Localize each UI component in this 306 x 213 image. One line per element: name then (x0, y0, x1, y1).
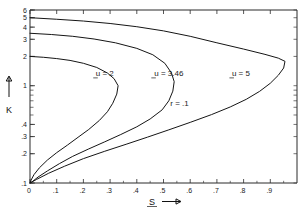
x-tick-label: .4 (133, 187, 139, 194)
y-tick-label: 5 (23, 14, 27, 21)
x-tick-label: .6 (186, 187, 192, 194)
y-tick-label: .3 (21, 133, 27, 140)
y-axis-label: K (6, 105, 12, 115)
x-tick-label: .8 (240, 187, 246, 194)
y-tick-label: 4 (23, 24, 27, 31)
x-axis-label: S (149, 197, 155, 207)
chart-canvas: 0.1.2.3.4.5.6.7.8.9.1.2.3.4123456 u = 2u… (0, 0, 306, 213)
x-axis-label-group: S (147, 197, 181, 207)
curve-label-0: u = 2 (96, 69, 115, 78)
annotation-r-value: r = .1 (170, 99, 189, 108)
y-tick-label: 3 (23, 36, 27, 43)
figure-container: 0.1.2.3.4.5.6.7.8.9.1.2.3.4123456 u = 2u… (0, 0, 306, 213)
y-tick-label: .2 (21, 150, 27, 157)
curve-label-2: u = 5 (232, 69, 251, 78)
curve-2 (30, 18, 285, 183)
y-tick-label: 1 (23, 82, 27, 89)
y-tick-label: 2 (23, 53, 27, 60)
x-tick-label: 0 (27, 187, 31, 194)
curve-label-1: u = 3.46 (154, 69, 184, 78)
x-tick-label: .1 (53, 187, 59, 194)
y-tick-label: .1 (21, 180, 27, 187)
curve-labels: u = 2u = 3.46u = 5 (93, 69, 250, 78)
x-tick-label: .2 (79, 187, 85, 194)
y-tick-label: .4 (21, 121, 27, 128)
x-tick-label: .7 (213, 187, 219, 194)
data-curves (30, 18, 285, 183)
y-axis-label-group: K (6, 76, 12, 115)
x-tick-label: .5 (160, 187, 166, 194)
x-tick-label: .9 (266, 187, 272, 194)
x-tick-label: .3 (106, 187, 112, 194)
curve-1 (30, 33, 174, 183)
y-tick-label: 6 (23, 7, 27, 14)
